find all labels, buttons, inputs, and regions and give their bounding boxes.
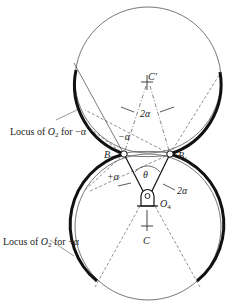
link-b1-o4 — [150, 154, 170, 195]
label-locus-minus-alpha: Locus of O2 for −α — [10, 126, 87, 139]
cprime-b1-line — [150, 86, 170, 154]
leader-locus-minus — [56, 110, 77, 120]
joint-b1 — [167, 151, 173, 157]
label-o4: O4 — [160, 198, 171, 211]
joint-b2 — [121, 151, 127, 157]
label-minus-alpha: −α — [118, 131, 131, 142]
arrow-2alpha-top-left — [121, 107, 134, 112]
dashed-left-lower — [95, 206, 140, 287]
arrow-lower-left — [118, 183, 131, 186]
label-locus-plus-alpha: Locus of O2 for +α — [3, 236, 80, 249]
link-b2-o4 — [124, 154, 145, 195]
label-2alpha-top: 2α — [140, 108, 151, 119]
cprime-b2-line — [124, 86, 146, 154]
arrow-2alpha-top-right — [160, 107, 174, 112]
label-theta: θ — [143, 169, 148, 180]
linkage-locus-diagram: Locus of O2 for −α Locus of O2 for +α C′… — [0, 0, 231, 307]
locus-minus-alpha-left-arc — [74, 70, 124, 154]
label-plus-alpha: +α — [107, 171, 120, 182]
dashed-right-lower — [155, 206, 200, 287]
dashed-b1-left-lower — [88, 154, 170, 192]
arrow-2alpha-right — [163, 184, 175, 190]
o4-pin — [145, 194, 150, 199]
label-2alpha-right: 2α — [177, 185, 188, 196]
label-c: C — [143, 235, 150, 246]
label-c-prime: C′ — [148, 71, 158, 82]
diagram-canvas: Locus of O2 for −α Locus of O2 for +α C′… — [0, 0, 231, 307]
